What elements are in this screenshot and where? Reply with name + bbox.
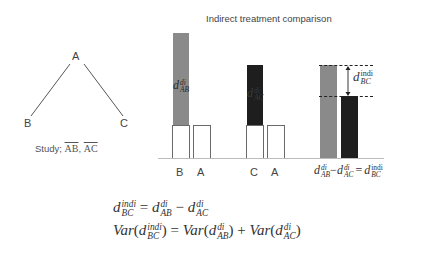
equation-variance: Var(dindiBC) = Var(ddiAB) + Var(ddiAC) bbox=[113, 222, 301, 240]
dashed-line-bottom bbox=[319, 96, 373, 97]
term-base: d bbox=[188, 199, 196, 215]
term-base: d bbox=[139, 222, 147, 238]
x-axis bbox=[158, 158, 384, 159]
term-base: d bbox=[209, 222, 217, 238]
label-base: d bbox=[173, 78, 179, 92]
chart-title: Indirect treatment comparison bbox=[206, 13, 332, 24]
study-label: Study; AB, AC bbox=[35, 143, 98, 154]
var-fn: Var bbox=[249, 222, 270, 238]
bar-ac-compare bbox=[341, 96, 358, 158]
term-base: d bbox=[113, 199, 121, 215]
bar-a-base-2 bbox=[267, 125, 285, 159]
bar-ab-compare bbox=[320, 65, 337, 158]
label-base: d bbox=[247, 86, 253, 100]
plus-sign: + bbox=[233, 222, 249, 238]
xlabel-b: B bbox=[176, 166, 183, 178]
study-ab: AB bbox=[65, 143, 79, 154]
study-prefix: Study; bbox=[35, 143, 65, 154]
term-sub: AC bbox=[284, 232, 296, 241]
term-sub: AC bbox=[196, 209, 208, 218]
node-a: A bbox=[72, 50, 79, 62]
term-sub: AB bbox=[160, 209, 171, 218]
term-base: d bbox=[275, 222, 283, 238]
var-fn: Var bbox=[113, 222, 134, 238]
term-base: d bbox=[314, 163, 320, 177]
bar-a-base-1 bbox=[193, 125, 211, 159]
term-sub: BC bbox=[371, 171, 383, 178]
equals-sign: = bbox=[167, 222, 183, 238]
xlabel-a-1: A bbox=[197, 166, 204, 178]
node-b: B bbox=[24, 117, 31, 129]
label-sub: AC bbox=[254, 94, 264, 101]
term-sub: BC bbox=[147, 232, 161, 241]
bar-b-base bbox=[172, 125, 190, 159]
equation-indirect-effect: dindiBC = ddiAB − ddiAC bbox=[113, 199, 208, 217]
label-base: d bbox=[353, 69, 360, 84]
term-sub: AB bbox=[321, 171, 330, 178]
xlabel-a-2: A bbox=[271, 166, 278, 178]
term-sub: AC bbox=[344, 171, 354, 178]
term-base: d bbox=[152, 199, 160, 215]
paren-close: ) bbox=[296, 222, 301, 238]
term-base: d bbox=[337, 163, 343, 177]
diff-label: dindiBC bbox=[353, 69, 373, 86]
difference-arrow-icon bbox=[343, 66, 353, 96]
comparison-formula: ddiAB−ddiAC=dindiBC bbox=[314, 163, 383, 178]
xlabel-c: C bbox=[250, 166, 258, 178]
bar-ac-label: ddiAC bbox=[247, 86, 264, 101]
bar-c-base bbox=[246, 125, 264, 159]
study-ac: AC bbox=[84, 143, 98, 154]
equals-sign: = bbox=[353, 163, 364, 177]
bar-ab-label: ddiAB bbox=[173, 78, 189, 93]
equals-sign: = bbox=[136, 199, 152, 215]
node-c: C bbox=[120, 117, 128, 129]
minus-sign: − bbox=[330, 163, 337, 177]
label-sub: AB bbox=[180, 86, 189, 93]
minus-sign: − bbox=[172, 199, 188, 215]
label-sub: BC bbox=[361, 78, 374, 86]
var-fn: Var bbox=[183, 222, 204, 238]
term-sub: AB bbox=[217, 232, 228, 241]
term-base: d bbox=[364, 163, 370, 177]
term-sub: BC bbox=[122, 209, 136, 218]
